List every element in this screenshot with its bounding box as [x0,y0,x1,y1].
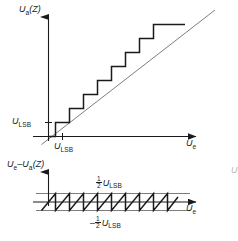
figure-canvas [0,0,238,241]
top-plot-x-tick-label: ULSB [54,142,73,153]
top-x-tick-subscript: LSB [61,146,74,153]
lower-bound-fraction: 1 2 [95,216,101,231]
page-edge-artifact: U [231,165,238,175]
bottom-plot-y-axis-label: Ue–Ua(Z) [7,160,44,171]
top-plot-y-axis-label: Ua(Z) [19,5,41,16]
top-y-axis-suffix: (Z) [29,4,41,14]
upper-bound-numerator: 1 [96,176,102,183]
adc-quantization-figure: Ua(Z) ULSB ULSB Ue Ue–Ua(Z) 1 2 ULSB – 1… [0,0,238,241]
lower-bound-subscript: LSB [108,222,121,229]
top-plot-x-axis-label: Ue [186,139,196,150]
quantized-staircase [49,25,186,137]
upper-bound-subscript: LSB [109,182,122,189]
top-x-axis-subscript: e [193,143,197,150]
error-lower-bound-label: – 1 2 ULSB [90,216,121,231]
top-plot-y-tick-label: ULSB [12,117,31,128]
bottom-plot-x-axis-label: Ue [186,204,196,215]
bottom-x-axis-subscript: e [193,208,197,215]
lower-bound-denominator: 2 [95,222,101,230]
top-plot-group [33,10,215,145]
upper-bound-fraction: 1 2 [96,176,102,191]
error-upper-bound-label: 1 2 ULSB [96,176,122,191]
top-y-tick-subscript: LSB [19,121,32,128]
upper-bound-denominator: 2 [96,182,102,190]
ideal-transfer-line [42,10,216,145]
lower-bound-numerator: 1 [95,216,101,223]
bottom-y-axis-suffix: (Z) [33,159,45,169]
